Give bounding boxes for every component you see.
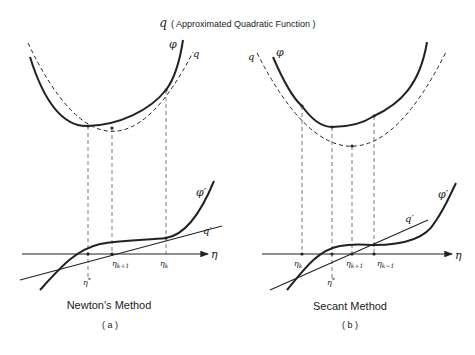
eta-km1-label-b: ηk−1 [377,259,394,269]
phi-prime-label-b: φ′ [438,188,449,201]
phi-label-a: φ [169,38,177,51]
phi-curve-a [30,40,183,126]
panel-b-secant: q φ φ′ q′ η ηk ηk+1 ηk−1 η* [248,42,462,290]
phi-prime-curve-b [287,183,456,290]
eta-k-label-a: ηk [160,259,169,269]
eta-k-label-b: ηk [294,259,303,269]
sublabel-a: ( a ) [80,320,140,330]
eta-star-label-b: η* [327,276,335,287]
q-prime-line-b [270,220,428,290]
eta-star-label-a: η* [83,276,91,287]
q-label-b: q [248,51,254,62]
sublabel-b: ( b ) [320,320,380,330]
phi-label-b: φ [276,46,284,59]
eta-k1-label-b: ηk+1 [346,259,363,269]
q-prime-line-a [20,226,222,280]
eta-axis-label-a: η [211,248,218,261]
phi-prime-label-a: φ′ [196,186,207,199]
q-label-a: q [193,48,199,59]
q-prime-label-a: q′ [203,225,212,236]
eta-axis-label-b: η [455,249,462,262]
caption-a: Newton's Method [29,299,189,311]
caption-b: Secant Method [270,300,430,312]
q-prime-label-b: q′ [405,213,414,224]
q-curve-b [257,52,446,146]
panel-a-newton: φ q φ′ q′ η ηk ηk+1 η* [20,38,222,290]
eta-k1-label-a: ηk+1 [112,259,129,269]
